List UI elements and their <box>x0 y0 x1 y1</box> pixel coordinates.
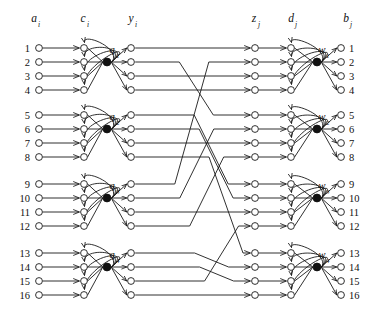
input-node-a <box>36 73 43 80</box>
hidden-unit-w2-subscript: 2 <box>326 119 330 127</box>
wire-c-to-q <box>88 62 103 76</box>
input-node-z <box>252 292 259 299</box>
wire-d-to-w <box>295 62 313 90</box>
output-column-header: b <box>343 12 349 24</box>
gate-node-c <box>81 73 88 80</box>
output-node-y <box>128 87 135 94</box>
gate-node-c <box>81 45 88 52</box>
network-diagram: aiciyizjdjbj 123456789101112131415161234… <box>0 0 383 309</box>
gate-node-c <box>81 126 88 133</box>
wire-d-to-w <box>295 267 313 295</box>
wire-w-to-b <box>321 267 337 295</box>
input-index-label: 12 <box>20 221 31 232</box>
gate-node-c <box>81 264 88 271</box>
gate-node-d <box>288 154 295 161</box>
output-node-y <box>128 209 135 216</box>
permutation-wire <box>135 226 250 281</box>
hidden-unit-q2-subscript: 2 <box>116 119 120 127</box>
hidden-unit-q3-label: q <box>109 180 114 191</box>
output-node-b <box>338 154 345 161</box>
input-index-label: 13 <box>20 248 31 259</box>
gate-node-d <box>288 45 295 52</box>
output-node-b <box>338 278 345 285</box>
output-node-b <box>338 45 345 52</box>
input-node-z <box>252 250 259 257</box>
input-index-label: 8 <box>25 152 30 163</box>
input-node-a <box>36 195 43 202</box>
input-index-label: 3 <box>25 71 30 82</box>
wire-q-to-y <box>111 267 127 281</box>
input-node-z <box>252 112 259 119</box>
output-node-y <box>128 112 135 119</box>
output-index-label: 15 <box>349 276 360 287</box>
output-node-y <box>128 154 135 161</box>
y-column-header-subscript: i <box>135 20 137 29</box>
wire-d-to-w <box>295 198 313 226</box>
output-node-b <box>338 223 345 230</box>
wire-c-to-q <box>88 198 103 226</box>
output-index-label: 9 <box>349 179 354 190</box>
wire-q-to-y <box>111 62 127 90</box>
output-node-b <box>338 264 345 271</box>
hidden-unit-q3-subscript: 3 <box>115 188 120 196</box>
output-node-b <box>338 112 345 119</box>
input-node-z <box>252 140 259 147</box>
input-node-a <box>36 126 43 133</box>
input-node-z <box>252 223 259 230</box>
input-node-a <box>36 87 43 94</box>
wire-w-to-b <box>321 198 337 212</box>
permutation-wire <box>135 62 250 184</box>
input-index-label: 15 <box>20 276 31 287</box>
input-node-z <box>252 59 259 66</box>
output-node-b <box>338 209 345 216</box>
input-node-z <box>252 45 259 52</box>
input-node-a <box>36 250 43 257</box>
hidden-unit-q1-subscript: 1 <box>116 52 120 60</box>
c-column-header-subscript: i <box>87 20 89 29</box>
network-svg: aiciyizjdjbj 123456789101112131415161234… <box>0 0 383 309</box>
hidden-unit-q4-node <box>103 263 111 271</box>
wire-d-to-w <box>295 129 313 157</box>
feedback-arc-w-to-d <box>291 119 327 151</box>
input-index-label: 10 <box>20 193 31 204</box>
gate-node-c <box>81 292 88 299</box>
input-node-z <box>252 181 259 188</box>
output-node-y <box>128 264 135 271</box>
wire-w-to-b <box>321 62 337 90</box>
input-node-a <box>36 181 43 188</box>
output-column-header-subscript: j <box>349 20 352 29</box>
output-index-label: 6 <box>349 124 354 135</box>
input-node-z <box>252 264 259 271</box>
hidden-unit-w3-subscript: 3 <box>325 188 330 196</box>
input-node-z <box>252 154 259 161</box>
output-node-y <box>128 250 135 257</box>
feedback-arc-w-to-d <box>291 257 327 289</box>
output-node-b <box>338 73 345 80</box>
output-node-y <box>128 126 135 133</box>
gate-node-c <box>81 87 88 94</box>
output-node-y <box>128 140 135 147</box>
hidden-unit-q4-subscript: 4 <box>116 257 120 265</box>
hidden-unit-q2-label: q <box>109 111 114 122</box>
output-node-y <box>128 59 135 66</box>
input-index-label: 16 <box>20 290 31 301</box>
gate-node-c <box>81 195 88 202</box>
wire-w-to-b <box>321 198 337 226</box>
wire-c-to-q <box>88 62 103 90</box>
permutation-wire <box>135 129 250 198</box>
output-node-b <box>338 140 345 147</box>
feedback-arc-w-to-d <box>291 52 327 84</box>
y-column-header: y <box>127 12 134 25</box>
input-node-a <box>36 264 43 271</box>
hidden-unit-q2-node <box>103 125 111 133</box>
output-node-b <box>338 195 345 202</box>
input-node-a <box>36 154 43 161</box>
input-index-label: 2 <box>25 57 30 68</box>
hidden-unit-w4-subscript: 4 <box>326 257 330 265</box>
input-node-a <box>36 59 43 66</box>
gate-node-d <box>288 223 295 230</box>
output-node-b <box>338 126 345 133</box>
output-node-y <box>128 45 135 52</box>
gate-node-d <box>288 195 295 202</box>
gate-node-c <box>81 209 88 216</box>
